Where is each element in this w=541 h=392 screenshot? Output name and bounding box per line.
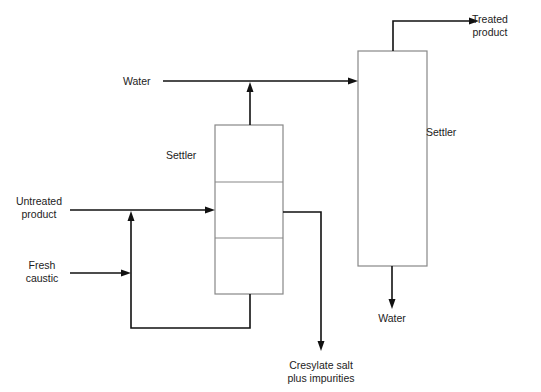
label-water-in: Water	[123, 75, 151, 87]
settler-tall-vessel	[358, 51, 427, 266]
label-untreated-line2: product	[21, 208, 56, 220]
stream-fresh-caustic	[70, 270, 131, 277]
label-settler-small: Settler	[166, 149, 197, 161]
settler-small	[215, 125, 283, 294]
arrow-up-icon	[128, 211, 135, 221]
label-settler-tall: Settler	[426, 126, 457, 138]
stream-settler-top-to-water	[247, 82, 254, 125]
label-cresylate-line1: Cresylate salt	[289, 359, 353, 371]
stream-water-in	[163, 78, 358, 85]
arrow-down-icon	[318, 341, 325, 351]
arrow-down-icon	[389, 299, 396, 309]
label-caustic-line2: caustic	[26, 272, 59, 284]
label-caustic-line1: Fresh	[29, 259, 56, 271]
label-treated-line1: Treated	[472, 13, 508, 25]
process-flow-diagram: Water Settler Settler Untreated product …	[0, 0, 541, 392]
label-untreated-line1: Untreated	[16, 195, 62, 207]
arrow-right-icon	[121, 270, 131, 277]
stream-cresylate-salt	[283, 212, 325, 351]
label-treated-line2: product	[472, 26, 507, 38]
stream-untreated-product	[70, 207, 215, 214]
stream-treated-product	[393, 18, 479, 52]
settler-small-vessel	[215, 125, 283, 294]
arrow-right-icon	[205, 207, 215, 214]
arrow-up-icon	[247, 82, 254, 92]
stream-water-out	[389, 266, 396, 309]
label-water-out: Water	[378, 312, 406, 324]
label-cresylate-line2: plus impurities	[287, 372, 354, 384]
arrow-right-icon	[348, 78, 358, 85]
